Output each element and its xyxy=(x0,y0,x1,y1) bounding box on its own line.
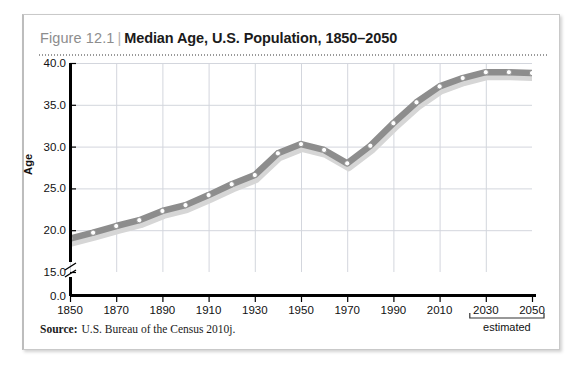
data-point-marker xyxy=(345,161,350,166)
data-point-marker xyxy=(206,192,211,197)
source-line: Source:U.S. Bureau of the Census 2010j. xyxy=(40,323,235,335)
source-label: Source: xyxy=(40,323,77,335)
y-axis-tick-label: 0.0 xyxy=(50,290,66,302)
title-separator: | xyxy=(114,30,124,46)
y-axis-tick-label: 40.0 xyxy=(44,57,66,69)
x-axis-tick-label: 1870 xyxy=(103,304,129,316)
y-axis-tick-label: 25.0 xyxy=(44,182,66,194)
x-axis-tick-label: 1890 xyxy=(150,304,176,316)
data-point-marker xyxy=(483,70,488,75)
data-point-marker xyxy=(91,230,96,235)
y-axis-tick-label: 15.0 xyxy=(44,266,66,278)
data-point-marker xyxy=(391,121,396,126)
figure-card: Figure 12.1|Median Age, U.S. Population,… xyxy=(22,14,560,350)
x-axis-tick-label: 2010 xyxy=(427,304,453,316)
x-axis-tick-labels: 1850187018901910193019501970199020102030… xyxy=(70,298,536,314)
data-point-marker xyxy=(70,236,73,241)
y-axis-tick-label: 30.0 xyxy=(44,141,66,153)
chart-vertical-gridlines xyxy=(71,63,533,272)
data-point-marker xyxy=(275,151,280,156)
data-point-marker xyxy=(252,172,257,177)
data-point-marker xyxy=(322,147,327,152)
median-age-line-chart xyxy=(70,63,532,272)
data-point-marker xyxy=(160,208,165,213)
x-axis-tick-label: 2050 xyxy=(519,304,545,316)
x-axis-tick-label: 1930 xyxy=(242,304,268,316)
figure-number: Figure 12.1 xyxy=(40,30,114,46)
estimated-annotation: estimated xyxy=(483,321,531,333)
figure-title-row: Figure 12.1|Median Age, U.S. Population,… xyxy=(40,29,397,47)
data-point-marker xyxy=(529,70,532,75)
data-point-marker xyxy=(183,203,188,208)
x-axis-tick-label: 1970 xyxy=(334,304,360,316)
source-text: U.S. Bureau of the Census 2010j. xyxy=(77,323,235,335)
data-point-marker xyxy=(414,100,419,105)
data-point-marker xyxy=(114,223,119,228)
data-point-marker xyxy=(298,141,303,146)
data-point-marker xyxy=(368,143,373,148)
y-axis-tick-label: 35.0 xyxy=(44,99,66,111)
chart-plot-area xyxy=(70,63,532,272)
y-axis-tick-label: 20.0 xyxy=(44,224,66,236)
x-axis-tick-label: 1850 xyxy=(57,304,83,316)
data-point-marker xyxy=(460,75,465,80)
x-axis-tick-label: 1990 xyxy=(381,304,407,316)
x-axis-tick-label: 2030 xyxy=(473,304,499,316)
data-point-marker xyxy=(506,70,511,75)
y-axis-tick-labels: 40.035.030.025.020.015.00.0 xyxy=(24,63,66,295)
data-point-marker xyxy=(229,182,234,187)
data-point-marker xyxy=(437,84,442,89)
title-divider xyxy=(39,54,547,56)
data-point-marker xyxy=(137,218,142,223)
x-axis-tick-label: 1950 xyxy=(288,304,314,316)
x-axis-tick-label: 1910 xyxy=(196,304,222,316)
page-title: Median Age, U.S. Population, 1850–2050 xyxy=(124,30,397,46)
